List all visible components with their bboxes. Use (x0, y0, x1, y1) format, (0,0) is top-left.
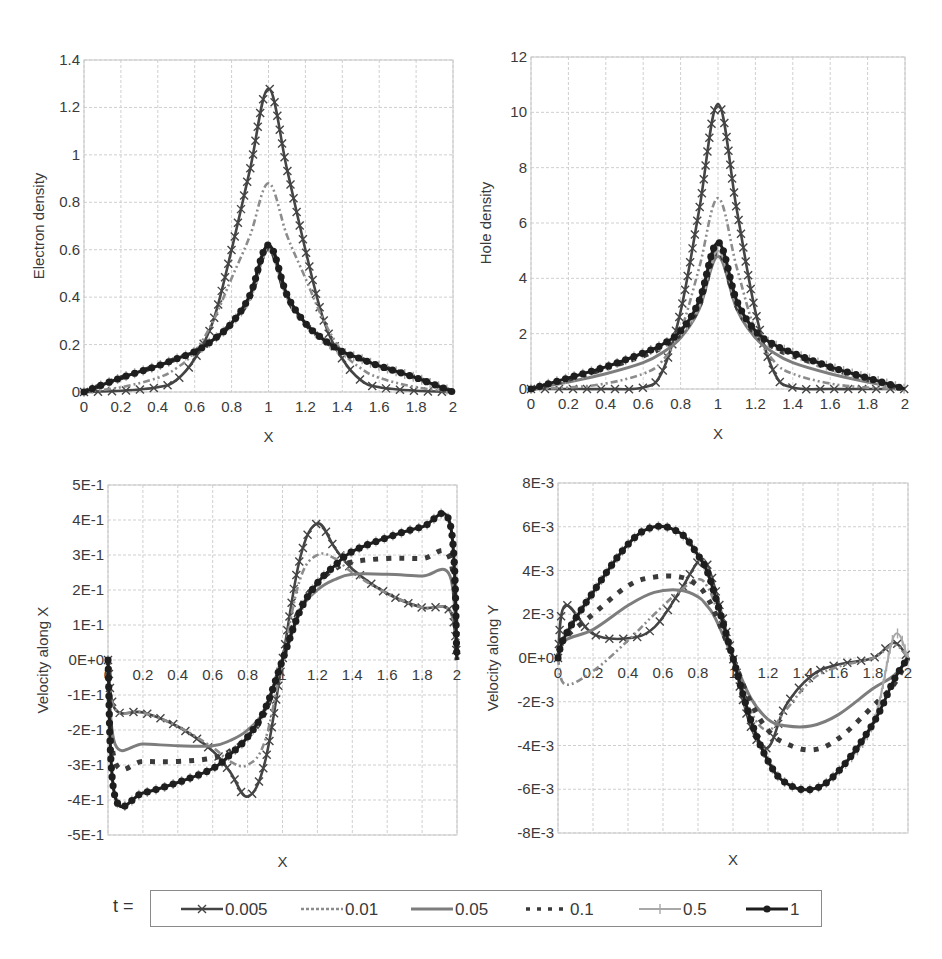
dot-marker-icon (776, 344, 783, 351)
chart-hole-density: 02468101200.20.40.60.811.21.41.61.82XHol… (477, 48, 909, 442)
dot-marker-icon (647, 346, 654, 353)
y-tick-label: 0.8 (59, 193, 80, 210)
dot-marker-icon (320, 572, 327, 579)
dot-marker-icon (283, 291, 290, 298)
dot-marker-icon (722, 630, 729, 637)
y-tick-label: 8E-3 (522, 474, 554, 491)
dot-marker-icon (252, 275, 259, 282)
series-t-1 (104, 510, 460, 810)
dot-marker-icon (876, 707, 883, 714)
x-tick-label: 0.6 (202, 666, 223, 683)
dot-marker-icon (452, 604, 459, 611)
dot-marker-icon (269, 686, 276, 693)
dot-marker-icon (244, 733, 251, 740)
dot-marker-icon (700, 561, 707, 568)
y-axis-label: Velocity along Y (484, 605, 501, 711)
dot-marker-icon (562, 375, 569, 382)
dot-marker-icon (901, 660, 908, 667)
dot-marker-icon (760, 335, 767, 342)
dot-marker-icon (769, 765, 776, 772)
legend: 0.0050.010.050.10.51 (150, 890, 822, 927)
dot-marker-icon (356, 545, 363, 552)
dot-marker-icon (286, 635, 293, 642)
x-marker-icon (346, 366, 354, 374)
y-tick-label: -2E-3 (517, 693, 554, 710)
x-tick-label: 1.2 (307, 666, 328, 683)
dot-marker-icon (588, 368, 595, 375)
y-tick-label: 0E+0 (69, 651, 104, 668)
dot-marker-icon (450, 550, 457, 557)
dot-marker-icon (622, 356, 629, 363)
dot-marker-icon (448, 388, 455, 395)
legend-entry-0.005: 0.005 (181, 900, 268, 919)
dot-marker-icon (754, 329, 761, 336)
dot-marker-icon (452, 613, 459, 620)
dot-marker-icon (270, 248, 277, 255)
x-tick-label: 0.4 (147, 398, 168, 415)
dot-marker-icon (232, 315, 239, 322)
dot-marker-icon (836, 767, 843, 774)
dot-marker-icon (105, 674, 112, 681)
dot-marker-icon (334, 560, 341, 567)
x-tick-label: 1.6 (820, 395, 841, 412)
x-marker-icon (248, 790, 256, 798)
dot-marker-icon (704, 569, 711, 576)
dot-marker-icon (430, 515, 437, 522)
x-tick-label: 0.8 (221, 398, 242, 415)
x-marker-icon (776, 378, 784, 386)
x-tick-label: 1.8 (412, 666, 433, 683)
x-tick-label: 1 (714, 395, 722, 412)
dot-marker-icon (710, 245, 717, 252)
dot-marker-icon (810, 357, 817, 364)
dot-marker-icon (801, 354, 808, 361)
chart-electron-density: 00.20.40.60.811.21.400.20.40.60.811.21.4… (30, 51, 457, 445)
x-marker-icon (328, 540, 336, 548)
x-axis-label: X (713, 425, 723, 442)
dot-marker-icon (605, 362, 612, 369)
x-tick-label: 1.2 (745, 395, 766, 412)
dot-marker-icon (114, 800, 121, 807)
dot-marker-icon (573, 614, 580, 621)
dot-marker-icon (583, 599, 590, 606)
x-axis-label: X (728, 851, 738, 868)
dot-marker-icon (734, 299, 741, 306)
dot-marker-icon (861, 373, 868, 380)
dot-marker-icon (364, 541, 371, 548)
dot-marker-icon (613, 554, 620, 561)
series-t-1 (80, 242, 455, 396)
legend-label: 0.1 (570, 900, 594, 919)
x-tick-label: 0.4 (618, 664, 639, 681)
y-tick-label: 0E+0 (519, 649, 554, 666)
dot-marker-icon (707, 253, 714, 260)
y-axis-label: Velocity along X (34, 607, 51, 714)
dot-marker-icon (226, 322, 233, 329)
dot-marker-icon (664, 524, 671, 531)
y-tick-label: 2E-1 (72, 581, 104, 598)
dot-marker-icon (272, 677, 279, 684)
y-tick-label: 2E-3 (522, 605, 554, 622)
dot-marker-icon (578, 606, 585, 613)
y-tick-label: 1.4 (59, 51, 80, 68)
dot-marker-icon (563, 629, 570, 636)
dot-marker-icon (655, 343, 662, 350)
dot-marker-icon (748, 322, 755, 329)
x-tick-label: 1 (264, 398, 272, 415)
dot-marker-icon (97, 382, 104, 389)
dot-marker-icon (826, 363, 833, 370)
dot-marker-icon (722, 256, 729, 263)
dot-marker-icon (273, 256, 280, 263)
dot-marker-icon (148, 364, 155, 371)
x-axis-label: X (277, 853, 287, 870)
dot-marker-icon (646, 524, 653, 531)
dot-marker-icon (111, 791, 118, 798)
dot-marker-icon (603, 569, 610, 576)
x-tick-label: 1.8 (857, 395, 878, 412)
dot-marker-icon (327, 566, 334, 573)
x-tick-label: 0.2 (132, 666, 153, 683)
x-tick-label: 0.6 (633, 395, 654, 412)
chart-velocity-x: -5E-1-4E-1-3E-1-2E-1-1E-10E+01E-12E-13E-… (34, 476, 461, 870)
y-tick-label: 6E-3 (522, 518, 554, 535)
legend-label: 0.5 (683, 900, 707, 919)
dot-marker-icon (232, 746, 239, 753)
x-tick-label: 0.2 (558, 395, 579, 412)
